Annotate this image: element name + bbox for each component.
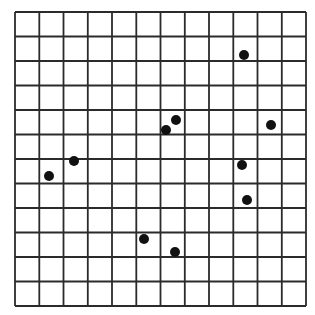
dot-grid-figure <box>0 0 315 315</box>
grid-dot <box>266 120 276 130</box>
grid-dot <box>242 195 252 205</box>
grid-dot <box>237 160 247 170</box>
grid-dot <box>69 156 79 166</box>
grid-dot <box>171 115 181 125</box>
grid-dot <box>170 247 180 257</box>
grid-dot <box>161 125 171 135</box>
background <box>0 0 315 315</box>
grid-dot <box>239 50 249 60</box>
grid-dot <box>139 234 149 244</box>
grid-dot <box>44 171 54 181</box>
grid-diagram <box>0 0 315 315</box>
